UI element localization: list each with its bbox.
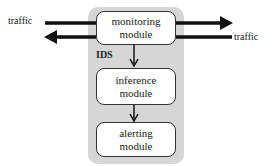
arrow-right-icon bbox=[176, 16, 233, 30]
arrows-layer bbox=[0, 0, 274, 166]
arrow-down-icon bbox=[130, 105, 138, 121]
arrow-down-icon bbox=[130, 45, 138, 66]
arrow-left-icon bbox=[44, 30, 96, 44]
